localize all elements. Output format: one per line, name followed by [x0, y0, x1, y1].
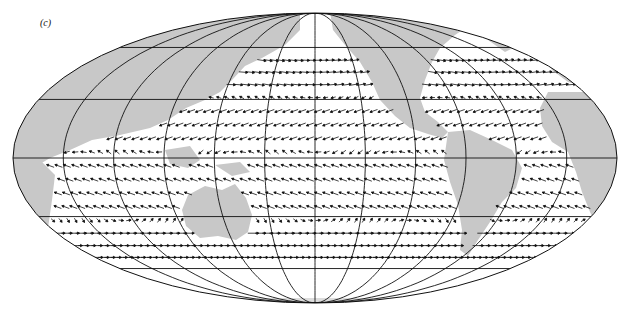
world-wind-map — [0, 0, 625, 312]
land-india-sea — [10, 160, 55, 250]
